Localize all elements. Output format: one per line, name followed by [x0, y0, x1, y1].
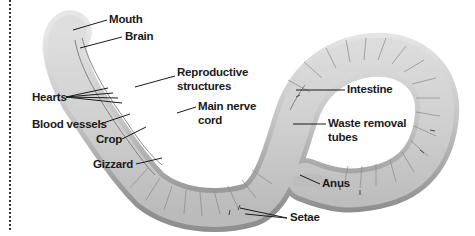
label-main-nerve-line1: Main nerve — [198, 99, 256, 113]
label-reproductive-line2: structures — [177, 79, 248, 93]
label-waste-line2: tubes — [328, 130, 406, 144]
label-reproductive-structures: Reproductive structures — [177, 65, 248, 93]
label-hearts: Hearts — [32, 90, 67, 104]
label-anus: Anus — [322, 176, 350, 190]
label-waste-line1: Waste removal — [328, 116, 406, 130]
label-gizzard: Gizzard — [93, 157, 133, 171]
label-crop: Crop — [96, 132, 122, 146]
label-intestine: Intestine — [347, 82, 393, 96]
label-blood-vessels: Blood vessels — [32, 117, 107, 131]
label-brain: Brain — [125, 29, 153, 43]
label-reproductive-line1: Reproductive — [177, 65, 248, 79]
label-waste-removal-tubes: Waste removal tubes — [328, 116, 406, 144]
label-main-nerve-cord: Main nerve cord — [198, 99, 256, 127]
label-main-nerve-line2: cord — [198, 113, 256, 127]
label-mouth: Mouth — [109, 12, 142, 26]
label-setae: Setae — [290, 210, 320, 224]
